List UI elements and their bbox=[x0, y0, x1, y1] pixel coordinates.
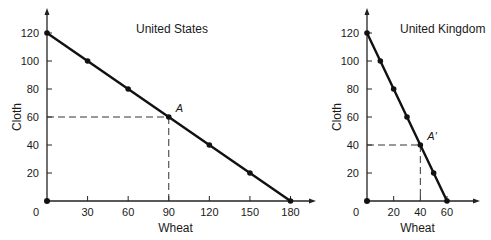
y-tick-label: 100 bbox=[21, 55, 39, 67]
data-point bbox=[166, 114, 172, 120]
y-tick-label: 80 bbox=[27, 83, 39, 95]
uk-ppf-chart: 204060204060801001200WheatClothUnited Ki… bbox=[330, 8, 485, 235]
data-point bbox=[44, 30, 50, 36]
x-tick-label: 120 bbox=[200, 206, 218, 218]
y-tick-label: 20 bbox=[27, 167, 39, 179]
y-tick-label: 120 bbox=[341, 27, 359, 39]
uk-x-axis-label: Wheat bbox=[400, 221, 435, 235]
data-point bbox=[378, 58, 384, 64]
data-point bbox=[364, 30, 370, 36]
data-point bbox=[418, 142, 424, 148]
origin-label: 0 bbox=[33, 206, 39, 218]
data-point bbox=[85, 58, 91, 64]
arrow-up-icon bbox=[365, 8, 370, 15]
data-point bbox=[207, 142, 213, 148]
y-tick-label: 80 bbox=[347, 83, 359, 95]
us-ppf-chart: 306090120150180204060801001200WheatCloth… bbox=[10, 8, 316, 235]
data-point bbox=[288, 198, 294, 204]
uk-point-label: A′ bbox=[426, 130, 437, 142]
data-point bbox=[125, 86, 131, 92]
data-point bbox=[391, 86, 397, 92]
chart-canvas: 306090120150180204060801001200WheatCloth… bbox=[0, 0, 491, 240]
y-tick-label: 40 bbox=[27, 139, 39, 151]
arrow-right-icon bbox=[473, 199, 480, 204]
data-point bbox=[404, 114, 410, 120]
us-point-label: A bbox=[175, 102, 183, 114]
x-tick-label: 60 bbox=[441, 206, 453, 218]
x-tick-label: 20 bbox=[388, 206, 400, 218]
x-tick-label: 30 bbox=[81, 206, 93, 218]
data-point bbox=[247, 170, 253, 176]
origin-point bbox=[364, 198, 370, 204]
x-tick-label: 40 bbox=[414, 206, 426, 218]
x-tick-label: 180 bbox=[281, 206, 299, 218]
x-tick-label: 60 bbox=[122, 206, 134, 218]
data-point bbox=[444, 198, 450, 204]
y-tick-label: 60 bbox=[27, 111, 39, 123]
x-tick-label: 90 bbox=[163, 206, 175, 218]
origin-point bbox=[44, 198, 50, 204]
origin-label: 0 bbox=[353, 206, 359, 218]
uk-y-axis-label: Cloth bbox=[330, 103, 344, 131]
y-tick-label: 100 bbox=[341, 55, 359, 67]
y-tick-label: 60 bbox=[347, 111, 359, 123]
x-tick-label: 150 bbox=[241, 206, 259, 218]
us-x-axis-label: Wheat bbox=[158, 221, 193, 235]
us-y-axis-label: Cloth bbox=[10, 103, 24, 131]
uk-chart-title: United Kingdom bbox=[400, 22, 485, 36]
y-tick-label: 40 bbox=[347, 139, 359, 151]
arrow-up-icon bbox=[45, 8, 50, 15]
data-point bbox=[431, 170, 437, 176]
y-tick-label: 20 bbox=[347, 167, 359, 179]
us-chart-title: United States bbox=[136, 22, 208, 36]
y-tick-label: 120 bbox=[21, 27, 39, 39]
arrow-right-icon bbox=[309, 199, 316, 204]
